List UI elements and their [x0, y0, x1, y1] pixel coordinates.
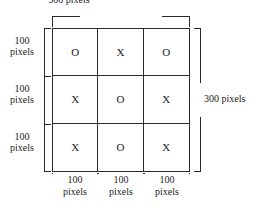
- grid-cell-r1c2: X: [98, 29, 143, 76]
- grid-cell-r1c3: O: [144, 29, 189, 76]
- left-bracket-spine: [44, 28, 45, 172]
- left-dimension-label-row2: 100 pixels: [2, 83, 42, 105]
- left-dimension-value-row1: 100: [2, 35, 42, 46]
- left-bracket-tick-1: [44, 76, 51, 77]
- top-dimension-bracket: [52, 16, 190, 27]
- bottom-dimension-bracket-col2: 100: [98, 173, 144, 180]
- bottom-dimension-unit-col3: pixels: [144, 186, 190, 198]
- top-bracket-tick-left: [52, 16, 53, 27]
- right-bracket-spine-upper: [200, 28, 201, 83]
- top-bracket-bar-left: [52, 16, 80, 17]
- grid-cell-r2c2: O: [98, 76, 143, 123]
- bottom-dimension-unit-col2: pixels: [98, 186, 144, 198]
- top-bracket-bar-right: [162, 16, 190, 17]
- right-bracket-tick-bottom: [194, 171, 201, 172]
- grid-cell-r3c1: X: [53, 124, 98, 171]
- right-bracket-tick-top: [194, 28, 201, 29]
- right-bracket-spine-lower: [200, 117, 201, 172]
- top-dimension-label: 300 pixels: [0, 0, 138, 6]
- bottom-dimension-value-col1: 100: [52, 174, 98, 186]
- tic-tac-toe-grid: O X O X O X X O X: [52, 28, 190, 172]
- grid-cell-r2c3: X: [144, 76, 189, 123]
- grid-cell-r3c2: O: [98, 124, 143, 171]
- pixel-grid-diagram: 300 pixels 100 pixels 100 pixels 100 pix…: [0, 0, 258, 214]
- left-dimension-value-row3: 100: [2, 131, 42, 142]
- grid-cell-r1c1: O: [53, 29, 98, 76]
- bottom-dimension-bracket-col3: 100: [144, 173, 190, 180]
- bottom-dimension-value-col2: 100: [98, 174, 144, 186]
- left-dimension-label-row1: 100 pixels: [2, 35, 42, 57]
- grid-cell-r2c1: X: [53, 76, 98, 123]
- bottom-dimension-value-col3: 100: [144, 174, 190, 186]
- left-bracket-tick-2: [44, 124, 51, 125]
- left-bracket-tick-0: [44, 28, 51, 29]
- left-dimension-bracket: [44, 28, 51, 172]
- left-bracket-tick-3: [44, 171, 51, 172]
- left-dimension-unit-row1: pixels: [2, 46, 42, 57]
- left-dimension-value-row2: 100: [2, 83, 42, 94]
- left-dimension-label-row3: 100 pixels: [2, 131, 42, 153]
- right-dimension-label: 300 pixels: [204, 93, 245, 105]
- top-bracket-tick-right: [189, 16, 190, 27]
- bottom-dimension-bracket-col1: 100: [52, 173, 98, 180]
- right-dimension-bracket: [194, 28, 201, 172]
- left-dimension-unit-row2: pixels: [2, 94, 42, 105]
- left-dimension-unit-row3: pixels: [2, 142, 42, 153]
- grid-cell-r3c3: X: [144, 124, 189, 171]
- bottom-dimension-unit-col1: pixels: [52, 186, 98, 198]
